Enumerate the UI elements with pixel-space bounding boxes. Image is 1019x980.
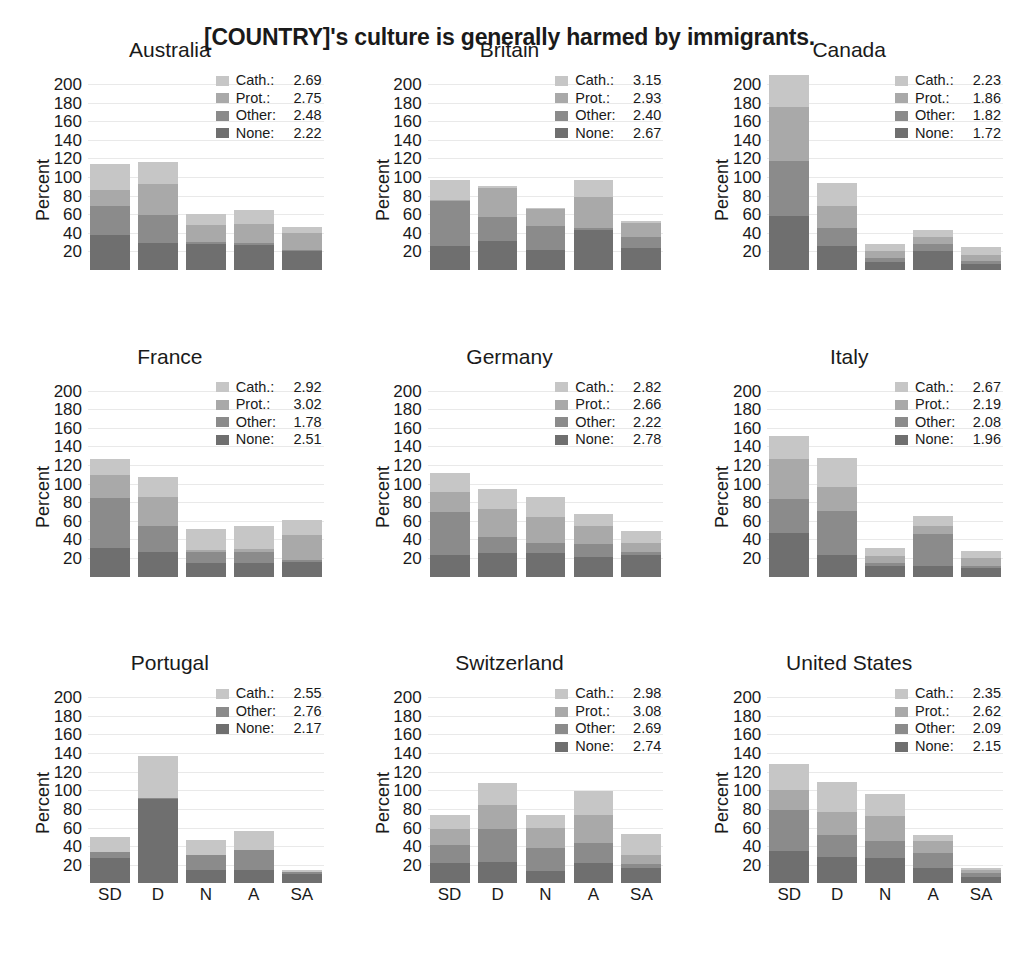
bar-segment-none[interactable] <box>621 248 661 270</box>
legend-item[interactable]: Other:2.22 <box>555 414 661 432</box>
bar-segment-prot[interactable] <box>817 812 857 835</box>
bar-segment-prot[interactable] <box>138 184 178 215</box>
bar-segment-none[interactable] <box>961 568 1001 576</box>
bar-segment-prot[interactable] <box>90 475 130 497</box>
bar-segment-prot[interactable] <box>526 828 566 848</box>
bar-d[interactable] <box>478 186 518 270</box>
bar-segment-none[interactable] <box>913 251 953 270</box>
bar-segment-other[interactable] <box>769 499 809 532</box>
bar-a[interactable] <box>574 180 614 270</box>
bar-n[interactable] <box>865 794 905 883</box>
bar-segment-other[interactable] <box>526 543 566 553</box>
bar-segment-other[interactable] <box>478 829 518 862</box>
bar-segment-none[interactable] <box>282 874 322 883</box>
legend-item[interactable]: Cath.:2.92 <box>216 379 322 397</box>
bar-segment-other[interactable] <box>913 244 953 251</box>
bar-segment-other[interactable] <box>817 835 857 857</box>
bar-segment-cath[interactable] <box>138 477 178 497</box>
bar-segment-prot[interactable] <box>769 790 809 810</box>
legend-item[interactable]: Other:2.69 <box>555 720 661 738</box>
bar-segment-prot[interactable] <box>430 492 470 512</box>
legend-item[interactable]: Prot.:2.93 <box>555 90 661 108</box>
bar-segment-cath[interactable] <box>138 756 178 798</box>
bar-segment-prot[interactable] <box>282 535 322 560</box>
bar-segment-none[interactable] <box>769 216 809 270</box>
bar-segment-none[interactable] <box>574 863 614 883</box>
legend-item[interactable]: None:2.17 <box>216 720 322 738</box>
legend-item[interactable]: None:2.67 <box>555 125 661 143</box>
bar-segment-none[interactable] <box>574 230 614 270</box>
bar-segment-none[interactable] <box>186 563 226 577</box>
bar-segment-none[interactable] <box>90 235 130 270</box>
bar-d[interactable] <box>817 183 857 270</box>
bar-segment-cath[interactable] <box>526 815 566 828</box>
bar-segment-none[interactable] <box>865 858 905 883</box>
legend-item[interactable]: Cath.:2.23 <box>895 72 1001 90</box>
bar-segment-other[interactable] <box>138 526 178 551</box>
bar-segment-prot[interactable] <box>478 509 518 537</box>
bar-segment-other[interactable] <box>526 848 566 871</box>
bar-segment-other[interactable] <box>769 161 809 216</box>
bar-segment-other[interactable] <box>234 850 274 870</box>
bar-segment-prot[interactable] <box>574 197 614 228</box>
bar-segment-cath[interactable] <box>574 514 614 526</box>
bar-segment-cath[interactable] <box>621 531 661 543</box>
bar-segment-none[interactable] <box>234 245 274 270</box>
bar-segment-cath[interactable] <box>90 164 130 190</box>
bar-segment-prot[interactable] <box>769 459 809 500</box>
bar-segment-prot[interactable] <box>526 209 566 227</box>
bar-segment-other[interactable] <box>186 855 226 871</box>
bar-segment-cath[interactable] <box>478 489 518 509</box>
legend-item[interactable]: None:2.74 <box>555 738 661 756</box>
bar-sa[interactable] <box>282 227 322 270</box>
bar-segment-prot[interactable] <box>817 206 857 228</box>
bar-d[interactable] <box>478 489 518 576</box>
bar-segment-cath[interactable] <box>430 815 470 829</box>
bar-segment-none[interactable] <box>865 566 905 576</box>
bar-segment-cath[interactable] <box>526 497 566 517</box>
bar-segment-none[interactable] <box>769 533 809 577</box>
bar-segment-prot[interactable] <box>621 855 661 864</box>
bar-segment-none[interactable] <box>526 871 566 883</box>
bar-segment-prot[interactable] <box>913 841 953 852</box>
bar-n[interactable] <box>186 214 226 270</box>
bar-segment-cath[interactable] <box>186 214 226 225</box>
legend-item[interactable]: Cath.:2.98 <box>555 685 661 703</box>
bar-sa[interactable] <box>961 551 1001 577</box>
bar-segment-other[interactable] <box>234 552 274 563</box>
bar-segment-prot[interactable] <box>526 517 566 543</box>
bar-sd[interactable] <box>90 459 130 576</box>
legend-item[interactable]: Other:1.78 <box>216 414 322 432</box>
bar-segment-cath[interactable] <box>865 794 905 816</box>
bar-segment-none[interactable] <box>574 557 614 577</box>
bar-segment-none[interactable] <box>282 562 322 577</box>
bar-n[interactable] <box>865 244 905 270</box>
bar-segment-other[interactable] <box>186 552 226 562</box>
bar-sd[interactable] <box>430 473 470 576</box>
bar-sd[interactable] <box>769 764 809 883</box>
bar-segment-none[interactable] <box>282 251 322 270</box>
bar-segment-other[interactable] <box>526 226 566 249</box>
bar-a[interactable] <box>913 516 953 576</box>
bar-d[interactable] <box>817 782 857 883</box>
bar-segment-prot[interactable] <box>621 223 661 237</box>
bar-sd[interactable] <box>90 164 130 270</box>
bar-sa[interactable] <box>282 870 322 883</box>
bar-n[interactable] <box>526 815 566 883</box>
bar-segment-prot[interactable] <box>865 816 905 840</box>
bar-segment-cath[interactable] <box>430 180 470 200</box>
bar-sa[interactable] <box>621 531 661 577</box>
bar-segment-cath[interactable] <box>234 831 274 850</box>
bar-a[interactable] <box>234 526 274 576</box>
bar-segment-cath[interactable] <box>282 520 322 535</box>
bar-segment-prot[interactable] <box>574 815 614 844</box>
legend-item[interactable]: Cath.:2.35 <box>895 685 1001 703</box>
bar-d[interactable] <box>138 477 178 577</box>
bar-segment-prot[interactable] <box>913 526 953 533</box>
bar-segment-other[interactable] <box>478 537 518 554</box>
bar-segment-cath[interactable] <box>865 548 905 556</box>
bar-d[interactable] <box>138 756 178 883</box>
bar-segment-none[interactable] <box>913 566 953 576</box>
legend-item[interactable]: Other:1.82 <box>895 107 1001 125</box>
legend-item[interactable]: Prot.:2.62 <box>895 703 1001 721</box>
